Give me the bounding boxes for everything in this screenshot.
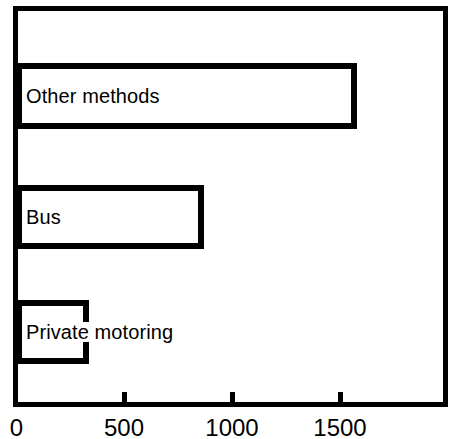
bar-label-private-motoring: Private motoring — [24, 322, 175, 342]
bar-label-bus: Bus — [24, 207, 63, 227]
x-axis-tick-label-1500: 1500 — [313, 416, 366, 439]
x-axis-tick-1500 — [338, 392, 343, 404]
bar-label-other-methods: Other methods — [24, 86, 162, 106]
x-axis-tick-1000 — [230, 392, 235, 404]
bar-chart: Other methods Bus Private motoring 0 500… — [0, 0, 451, 439]
x-axis-tick-label-1000: 1000 — [205, 416, 258, 439]
x-axis-tick-label-0: 0 — [10, 416, 23, 439]
x-axis-tick-500 — [122, 392, 127, 404]
x-axis-tick-label-500: 500 — [104, 416, 144, 439]
